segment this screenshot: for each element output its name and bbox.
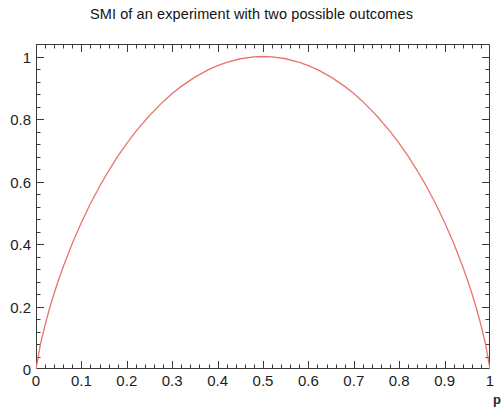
x-tick-label: 0.3 [162, 372, 183, 389]
chart-figure: SMI of an experiment with two possible o… [0, 0, 503, 410]
x-tick-label: 0.4 [207, 372, 228, 389]
chart-title: SMI of an experiment with two possible o… [0, 6, 503, 22]
x-tick-label: 0.1 [71, 372, 92, 389]
y-tick-label: 0.6 [10, 173, 31, 190]
frame-border [37, 45, 490, 369]
x-tick-label: 1 [486, 372, 494, 389]
x-tick-label: 0.2 [116, 372, 137, 389]
plot-svg [36, 44, 490, 369]
x-tick-label: 0.7 [343, 372, 364, 389]
y-tick-label: 0 [23, 361, 31, 378]
axis-ticks [37, 45, 491, 370]
data-series [36, 57, 490, 370]
plot-area [36, 44, 490, 369]
y-tick-label: 1 [23, 48, 31, 65]
x-axis-title: p [493, 392, 501, 407]
y-tick-label: 0.8 [10, 111, 31, 128]
y-tick-label: 0.2 [10, 298, 31, 315]
entropy-curve [36, 57, 490, 370]
x-tick-label: 0.9 [434, 372, 455, 389]
x-tick-label: 0 [32, 372, 40, 389]
x-tick-label: 0.5 [253, 372, 274, 389]
y-tick-label: 0.4 [10, 236, 31, 253]
x-tick-label: 0.6 [298, 372, 319, 389]
x-tick-label: 0.8 [389, 372, 410, 389]
axis-frame [37, 45, 490, 369]
